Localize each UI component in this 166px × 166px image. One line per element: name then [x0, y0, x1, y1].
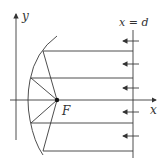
- ray-reflected: [31, 100, 57, 123]
- ray-reflected: [43, 100, 57, 151]
- x-axis-label: x: [150, 103, 157, 117]
- ray-reflected: [43, 51, 57, 100]
- focus-label: F: [61, 104, 71, 118]
- parabola-curve: [28, 36, 57, 155]
- ray-reflected: [31, 78, 57, 100]
- parabola-diagram: y x x = d F: [0, 0, 166, 166]
- focus-point: [55, 98, 59, 102]
- line-label: x = d: [119, 16, 148, 29]
- y-axis-label: y: [21, 9, 29, 23]
